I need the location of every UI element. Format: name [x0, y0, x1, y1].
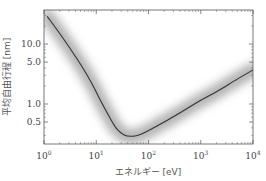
uncertainty-band [47, 16, 253, 136]
x-axis-label: エネルギー [eV] [115, 167, 182, 177]
data-curve [47, 16, 253, 136]
y-axis-label: 平均自由行程 [nm] [1, 38, 12, 116]
y-tick-label: 5.0 [27, 57, 42, 67]
x-tick-label: 101 [89, 149, 104, 161]
x-tick-label: 103 [193, 149, 208, 161]
uncertainty-band-core [47, 16, 253, 136]
mean-free-path-chart: 100101102103104 0.51.05.010.0 エネルギー [eV]… [0, 0, 266, 181]
plot-area [47, 16, 253, 136]
y-tick-label: 1.0 [27, 99, 42, 109]
y-tick-label: 0.5 [27, 117, 42, 127]
x-tick-label: 102 [141, 149, 156, 161]
y-tick-label: 10.0 [21, 39, 41, 49]
x-tick-label: 100 [36, 149, 51, 161]
x-tick-label: 104 [245, 149, 260, 161]
